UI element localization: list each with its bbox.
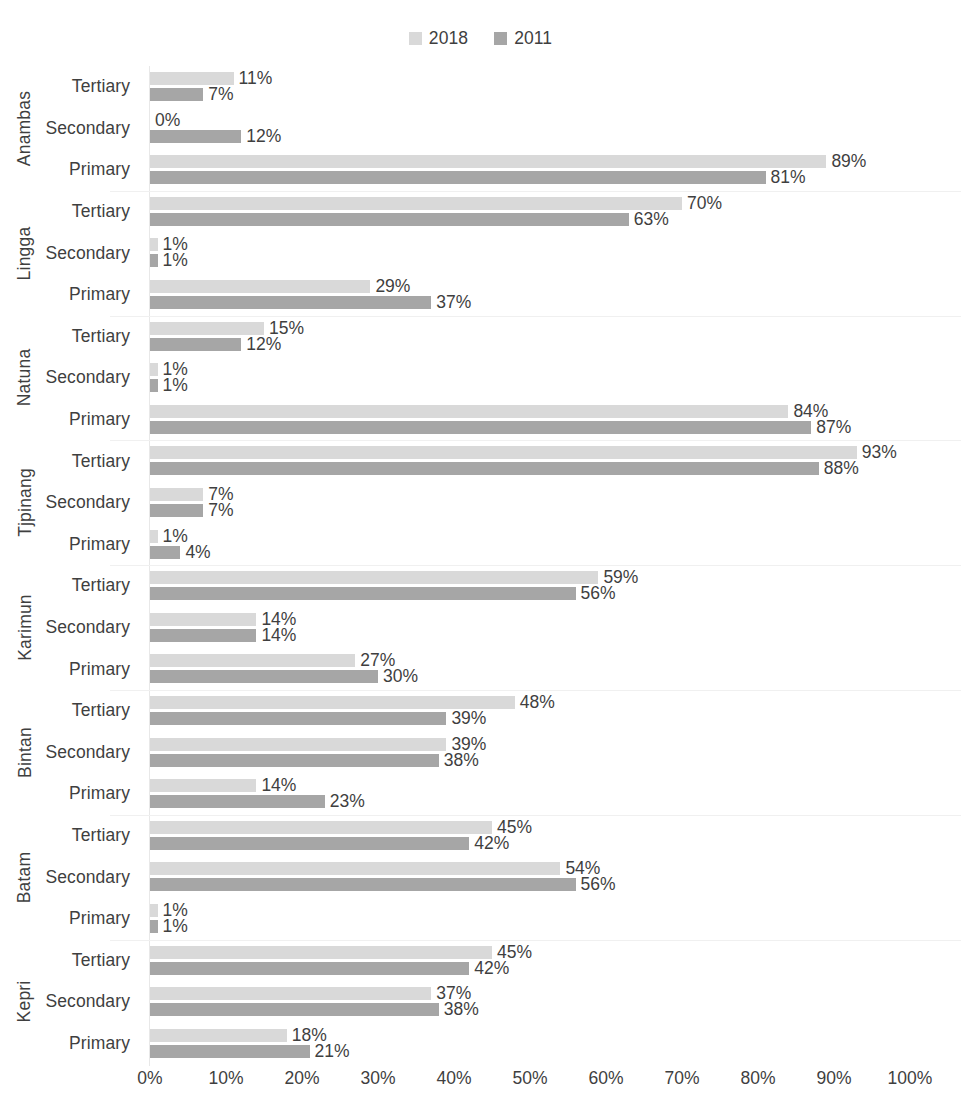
bar-2011[interactable]: 87% <box>150 421 851 434</box>
bar-2011[interactable]: 12% <box>150 338 281 351</box>
bar-2018[interactable]: 89% <box>150 155 866 168</box>
bar-2018[interactable]: 37% <box>150 987 471 1000</box>
bar-2011[interactable]: 39% <box>150 712 486 725</box>
bar-2018[interactable]: 29% <box>150 280 410 293</box>
bar-rect-2018[interactable] <box>150 405 788 418</box>
bar-rect-2011[interactable] <box>150 837 469 850</box>
bar-2011[interactable]: 1% <box>150 254 188 267</box>
bar-2011[interactable]: 7% <box>150 88 233 101</box>
bar-2011[interactable]: 23% <box>150 795 365 808</box>
bar-rect-2011[interactable] <box>150 670 378 683</box>
bar-rect-2011[interactable] <box>150 754 439 767</box>
bar-2018[interactable]: 14% <box>150 779 296 792</box>
bar-2018[interactable]: 93% <box>150 446 897 459</box>
bar-rect-2011[interactable] <box>150 920 158 933</box>
bar-2018[interactable]: 15% <box>150 322 304 335</box>
bar-pair: 48%39% <box>150 690 961 732</box>
bar-2011[interactable]: 88% <box>150 462 859 475</box>
x-tick-label: 80% <box>740 1068 775 1089</box>
bar-rect-2011[interactable] <box>150 546 180 559</box>
bar-rect-2011[interactable] <box>150 878 576 891</box>
bar-value-label: 63% <box>634 213 669 226</box>
x-tick-label: 100% <box>888 1068 933 1089</box>
bar-2011[interactable]: 56% <box>150 878 616 891</box>
bar-2018[interactable]: 27% <box>150 654 395 667</box>
bar-rect-2011[interactable] <box>150 629 256 642</box>
bar-rect-2011[interactable] <box>150 795 325 808</box>
bar-rect-2011[interactable] <box>150 254 158 267</box>
bar-rect-2011[interactable] <box>150 296 431 309</box>
bar-rect-2018[interactable] <box>150 197 682 210</box>
bar-rect-2018[interactable] <box>150 821 492 834</box>
bar-2018[interactable]: 48% <box>150 696 555 709</box>
category-label: Primary <box>0 1023 139 1065</box>
bar-rect-2011[interactable] <box>150 338 241 351</box>
bar-rect-2011[interactable] <box>150 130 241 143</box>
bar-2011[interactable]: 56% <box>150 587 616 600</box>
bar-rect-2018[interactable] <box>150 280 370 293</box>
bar-pair: 11%7% <box>150 66 961 108</box>
group-rows: Tertiary15%12%Secondary1%1%Primary84%87% <box>0 316 961 441</box>
bar-rect-2018[interactable] <box>150 363 158 376</box>
bar-rect-2018[interactable] <box>150 862 560 875</box>
bar-rect-2018[interactable] <box>150 571 598 584</box>
category-row: Tertiary45%42% <box>0 940 961 982</box>
bar-rect-2018[interactable] <box>150 987 431 1000</box>
bar-2018[interactable]: 18% <box>150 1029 327 1042</box>
bar-2018[interactable]: 45% <box>150 946 532 959</box>
bar-rect-2018[interactable] <box>150 654 355 667</box>
bar-2011[interactable]: 42% <box>150 962 509 975</box>
bar-2018[interactable]: 59% <box>150 571 638 584</box>
bar-2011[interactable]: 21% <box>150 1045 350 1058</box>
bar-rect-2011[interactable] <box>150 171 766 184</box>
bar-2011[interactable]: 38% <box>150 754 479 767</box>
bar-2011[interactable]: 12% <box>150 130 281 143</box>
bar-rect-2018[interactable] <box>150 946 492 959</box>
bar-rect-2018[interactable] <box>150 904 158 917</box>
bar-2018[interactable]: 0% <box>150 114 180 127</box>
bar-2011[interactable]: 38% <box>150 1003 479 1016</box>
bar-rect-2018[interactable] <box>150 322 264 335</box>
bar-rect-2018[interactable] <box>150 1029 287 1042</box>
bar-rect-2011[interactable] <box>150 1003 439 1016</box>
bar-2011[interactable]: 37% <box>150 296 471 309</box>
bar-pair: 1%1% <box>150 357 961 399</box>
bar-rect-2018[interactable] <box>150 238 158 251</box>
category-row: Secondary54%56% <box>0 856 961 898</box>
bar-2018[interactable]: 45% <box>150 821 532 834</box>
bar-rect-2018[interactable] <box>150 613 256 626</box>
category-label: Tertiary <box>0 565 139 607</box>
bar-rect-2011[interactable] <box>150 962 469 975</box>
bar-2011[interactable]: 7% <box>150 504 233 517</box>
bar-rect-2011[interactable] <box>150 379 158 392</box>
bar-2011[interactable]: 81% <box>150 171 806 184</box>
bar-2018[interactable]: 54% <box>150 862 600 875</box>
bar-2018[interactable]: 1% <box>150 530 188 543</box>
bar-rect-2011[interactable] <box>150 88 203 101</box>
bar-rect-2011[interactable] <box>150 504 203 517</box>
bar-rect-2011[interactable] <box>150 462 819 475</box>
category-row: Tertiary48%39% <box>0 690 961 732</box>
bar-2018[interactable]: 39% <box>150 738 486 751</box>
bar-rect-2011[interactable] <box>150 712 446 725</box>
bar-2018[interactable]: 70% <box>150 197 722 210</box>
bar-rect-2018[interactable] <box>150 738 446 751</box>
bar-2011[interactable]: 63% <box>150 213 669 226</box>
bar-rect-2018[interactable] <box>150 530 158 543</box>
bar-2011[interactable]: 42% <box>150 837 509 850</box>
bar-2011[interactable]: 30% <box>150 670 418 683</box>
bar-rect-2018[interactable] <box>150 155 826 168</box>
bar-2011[interactable]: 4% <box>150 546 211 559</box>
bar-2018[interactable]: 84% <box>150 405 828 418</box>
bar-2011[interactable]: 14% <box>150 629 296 642</box>
bar-rect-2011[interactable] <box>150 421 811 434</box>
bar-rect-2011[interactable] <box>150 1045 310 1058</box>
bar-rect-2011[interactable] <box>150 587 576 600</box>
bar-rect-2018[interactable] <box>150 779 256 792</box>
bar-rect-2018[interactable] <box>150 446 857 459</box>
bar-2011[interactable]: 1% <box>150 379 188 392</box>
bar-2011[interactable]: 1% <box>150 920 188 933</box>
bar-2018[interactable]: 14% <box>150 613 296 626</box>
bar-rect-2011[interactable] <box>150 213 629 226</box>
bar-rect-2018[interactable] <box>150 488 203 501</box>
